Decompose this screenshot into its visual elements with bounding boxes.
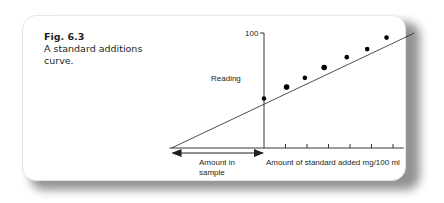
standard-additions-chart: 100 Reading Amount of standard added mg/… — [0, 0, 444, 203]
data-point — [384, 35, 389, 40]
data-point — [321, 65, 327, 71]
y-tick-label-100: 100 — [245, 29, 259, 38]
data-point — [262, 96, 267, 101]
x-axis-label: Amount of standard added mg/100 ml — [266, 158, 400, 167]
annotation-label-line2: sample — [199, 168, 225, 177]
data-point — [365, 47, 370, 52]
y-axis-label: Reading — [211, 74, 241, 83]
annotation-label-line1: Amount in — [199, 158, 235, 167]
data-point — [284, 84, 290, 90]
data-point — [344, 55, 349, 60]
data-point — [303, 76, 308, 81]
fit-line — [172, 33, 415, 148]
